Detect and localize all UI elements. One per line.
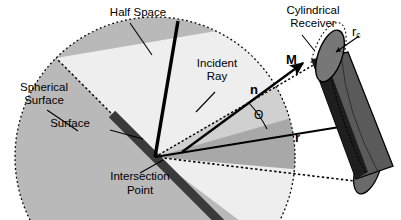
incident-ray-label-line2: Ray: [182, 70, 252, 83]
vector-n-label: n: [250, 82, 258, 97]
cylindrical-receiver-leader: [302, 35, 314, 50]
diagram-canvas: [0, 0, 401, 220]
incident-ray-label-line1: Incident: [182, 57, 252, 70]
cylinder-radius-subscript: c: [356, 30, 360, 40]
vector-r-label: r: [295, 130, 300, 145]
intersection-point-label-line2: Point: [90, 184, 190, 197]
half-space-label: Half Space: [98, 6, 178, 19]
cylindrical-receiver-label-line1: Cylindrical: [271, 4, 355, 17]
intersection-point-label-line1: Intersection: [90, 170, 190, 183]
vector-m-label: M: [286, 52, 297, 67]
cylindrical-receiver-label-line2: Receiver: [271, 17, 355, 30]
cylinder-radius-label: rc: [352, 24, 361, 40]
angle-theta-label: Θ: [254, 108, 263, 122]
spherical-surface-label-line1: Spherical: [6, 81, 82, 94]
surface-label: Surface: [39, 117, 101, 130]
cylindrical-receiver: [310, 23, 393, 198]
diagram-figure: Half Space Spherical Surface Incident Ra…: [0, 0, 401, 220]
spherical-surface-label-line2: Surface: [6, 94, 82, 107]
